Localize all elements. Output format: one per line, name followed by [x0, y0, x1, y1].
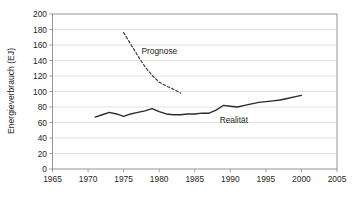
prognose-series-label: Prognose [141, 46, 177, 56]
y-tick-label-140: 140 [33, 56, 47, 66]
y-tick-label-40: 40 [38, 133, 48, 143]
realitaet-series-label: Realität [220, 115, 249, 125]
x-tick-label-1965: 1965 [43, 174, 62, 184]
x-tick-label-1990: 1990 [221, 174, 240, 184]
x-axis-tick-labels: 196519701975198019851990199520002005 [43, 174, 346, 184]
y-axis-title: Energieverbrauch (EJ) [6, 48, 16, 134]
x-tick-label-1980: 1980 [150, 174, 169, 184]
chart-container: 020406080100120140160180200 196519701975… [0, 0, 360, 201]
y-tick-label-60: 60 [38, 118, 48, 128]
chart-background [0, 0, 360, 201]
y-tick-label-20: 20 [38, 149, 48, 159]
x-tick-label-1985: 1985 [185, 174, 204, 184]
y-tick-label-180: 180 [33, 25, 47, 35]
energy-consumption-line-chart: 020406080100120140160180200 196519701975… [0, 0, 360, 201]
x-tick-label-1975: 1975 [114, 174, 133, 184]
y-tick-label-120: 120 [33, 71, 47, 81]
y-tick-label-100: 100 [33, 87, 47, 97]
x-tick-label-2000: 2000 [292, 174, 311, 184]
y-tick-label-200: 200 [33, 9, 47, 19]
y-tick-label-0: 0 [42, 164, 47, 174]
y-tick-label-80: 80 [38, 102, 48, 112]
x-tick-label-2005: 2005 [328, 174, 347, 184]
x-tick-label-1995: 1995 [257, 174, 276, 184]
x-tick-label-1970: 1970 [79, 174, 98, 184]
y-tick-label-160: 160 [33, 40, 47, 50]
